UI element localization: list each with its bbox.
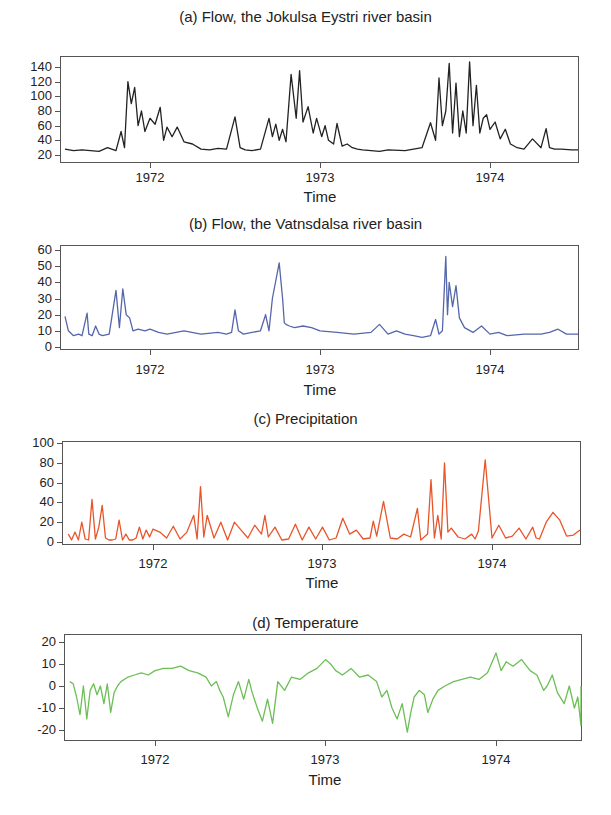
panel-d-series-line [70,653,581,732]
panel-a-series-line [65,62,578,151]
series-layer [0,0,611,815]
panel-c-series-line [68,460,580,540]
panel-b-series-line [65,257,578,338]
